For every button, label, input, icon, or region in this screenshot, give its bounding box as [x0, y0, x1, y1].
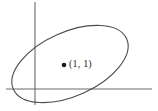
plot-canvas	[0, 0, 158, 111]
ellipse-plot-figure: (1, 1)	[0, 0, 158, 111]
point-group	[62, 63, 67, 68]
point-coordinate-label: (1, 1)	[69, 58, 92, 69]
marked-point	[62, 63, 67, 68]
